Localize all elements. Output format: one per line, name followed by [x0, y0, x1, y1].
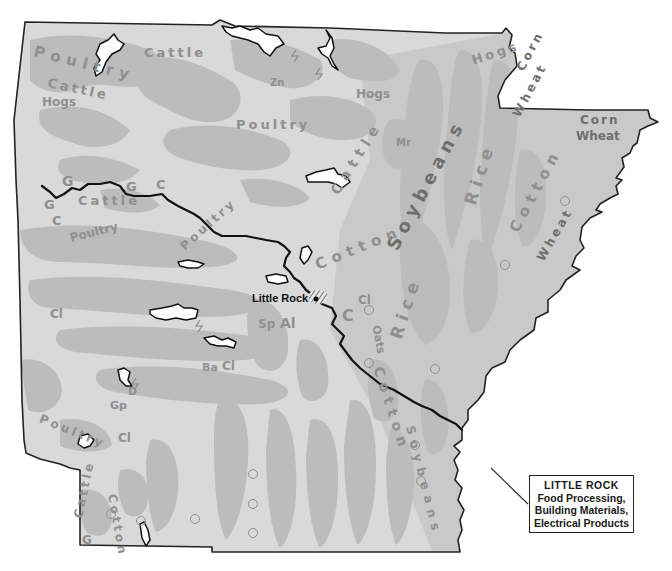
- label-zn: Zn: [270, 78, 284, 88]
- city-label-little-rock[interactable]: Little Rock: [252, 292, 308, 304]
- label-hogs-nc: Hogs: [356, 88, 390, 100]
- callout-title: LITTLE ROCK: [531, 479, 632, 492]
- label-cl-swc: Cl: [222, 360, 235, 372]
- little-rock-urban-area: [308, 290, 328, 304]
- callout-line: Electrical Products: [531, 517, 632, 530]
- label-gp: Gp: [110, 400, 127, 411]
- well-symbol: [248, 499, 258, 509]
- label-c-w2: C: [52, 214, 62, 227]
- label-g-sw: G: [82, 534, 92, 546]
- lake-conway: [266, 274, 288, 284]
- little-rock-marker[interactable]: [314, 297, 319, 302]
- well-symbol: [248, 469, 258, 479]
- callout-line: Food Processing,: [531, 492, 632, 505]
- well-symbol: [136, 516, 146, 526]
- label-cl-central: Cl: [358, 294, 371, 306]
- well-symbol: [190, 514, 200, 524]
- label-cattle-w: Cattle: [78, 194, 140, 207]
- label-cattle-n: Cattle: [144, 46, 206, 59]
- label-poultry-nc: Poultry: [236, 118, 310, 131]
- well-symbol: [500, 260, 510, 270]
- label-ba: Ba: [202, 362, 218, 373]
- label-al: Al: [280, 316, 296, 330]
- label-corn-corner: Corn: [580, 114, 620, 126]
- label-cl-sw: Cl: [118, 432, 131, 444]
- label-c-central: C: [342, 308, 354, 324]
- label-d: D: [128, 386, 137, 397]
- label-cl-w: Cl: [50, 308, 63, 320]
- well-symbol: [248, 528, 258, 538]
- label-hogs-nw: Hogs: [42, 96, 76, 108]
- callout-leader-line: [491, 468, 528, 504]
- well-symbol: [364, 358, 374, 368]
- label-sp: Sp: [258, 318, 275, 330]
- well-symbol: [560, 196, 570, 206]
- label-mr: Mr: [396, 138, 411, 148]
- well-symbol: [430, 364, 440, 374]
- callout-line: Building Materials,: [531, 504, 632, 517]
- label-g-w3: G: [44, 198, 55, 211]
- label-g-w2: G: [126, 180, 137, 193]
- label-wheat-corner: Wheat: [576, 130, 620, 142]
- label-c-w1: C: [156, 178, 166, 191]
- label-g-w1: G: [62, 174, 74, 188]
- little-rock-industry-callout: LITTLE ROCK Food Processing, Building Ma…: [529, 475, 634, 533]
